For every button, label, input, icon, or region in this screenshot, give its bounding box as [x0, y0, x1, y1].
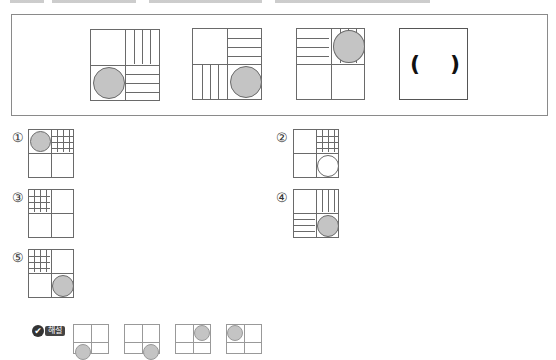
option-2-figure[interactable]	[293, 129, 339, 178]
check-icon: ✔	[32, 325, 44, 337]
filled-circle-icon	[52, 275, 74, 297]
option-1-number[interactable]: ①	[12, 130, 24, 145]
filled-circle-icon	[227, 325, 243, 341]
answer-blank-box: ( )	[399, 28, 468, 100]
option-1-figure[interactable]	[28, 129, 74, 178]
empty-circle-icon	[317, 155, 339, 177]
option-4-figure[interactable]	[293, 189, 339, 238]
explanation-figure-3	[175, 324, 211, 354]
filled-circle-icon	[75, 344, 91, 360]
filled-circle-icon	[93, 67, 125, 99]
explanation-figure-2	[124, 324, 160, 354]
cropped-question-text	[10, 0, 430, 3]
option-5-figure[interactable]	[28, 249, 74, 298]
explanation-figure-1	[73, 324, 109, 354]
sequence-figure-3	[296, 28, 365, 100]
filled-circle-icon	[30, 131, 51, 152]
filled-circle-icon	[194, 325, 210, 341]
filled-circle-icon	[230, 66, 262, 98]
filled-circle-icon	[333, 30, 365, 63]
sequence-figure-2	[192, 28, 262, 100]
option-3-number[interactable]: ③	[12, 190, 24, 205]
close-paren: )	[450, 51, 460, 76]
option-3-figure[interactable]	[28, 189, 74, 238]
filled-circle-icon	[317, 215, 339, 237]
sequence-figure-1	[90, 29, 160, 101]
option-5-number[interactable]: ⑤	[12, 250, 24, 265]
explanation-badge: ✔ 해설	[32, 325, 65, 337]
option-4-number[interactable]: ④	[276, 190, 288, 205]
open-paren: (	[410, 51, 420, 76]
option-2-number[interactable]: ②	[276, 130, 288, 145]
filled-circle-icon	[143, 344, 159, 360]
explanation-figure-4	[226, 324, 262, 354]
explanation-label: 해설	[45, 326, 65, 336]
